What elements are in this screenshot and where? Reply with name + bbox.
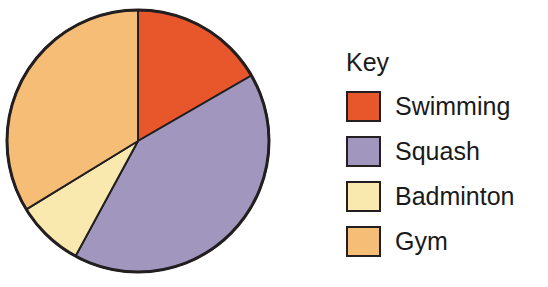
legend-item-badminton[interactable]: Badminton [340, 174, 548, 219]
pie-chart-figure: Key Swimming Squash Badminton Gym [0, 0, 548, 287]
legend-item-swimming[interactable]: Swimming [340, 84, 548, 129]
pie-chart-graphic [0, 0, 290, 287]
legend-swatch-gym [346, 226, 381, 257]
legend-swatch-swimming [346, 91, 381, 122]
legend-item-gym[interactable]: Gym [340, 219, 548, 264]
legend-swatch-badminton [346, 181, 381, 212]
legend-item-squash[interactable]: Squash [340, 129, 548, 174]
legend-label-squash: Squash [395, 139, 480, 164]
legend-title: Key [346, 48, 548, 76]
legend: Key Swimming Squash Badminton Gym [340, 48, 548, 287]
legend-swatch-squash [346, 136, 381, 167]
pie-svg [0, 0, 290, 287]
legend-label-gym: Gym [395, 229, 448, 254]
legend-label-badminton: Badminton [395, 184, 515, 209]
legend-label-swimming: Swimming [395, 94, 510, 119]
